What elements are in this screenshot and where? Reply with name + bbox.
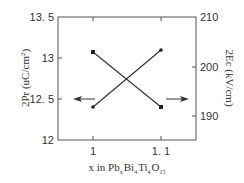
x-axis: 1 1. 1 <box>90 17 170 157</box>
left-tick-12-5: 12. 5 <box>30 93 54 105</box>
left-tick-12: 12 <box>42 134 54 146</box>
x-axis-label: x in PbxBi4Ti4O15 <box>89 161 166 175</box>
marker-2pr-1 <box>91 105 95 109</box>
marker-2ec-2 <box>159 105 163 109</box>
right-tick-200: 200 <box>200 61 218 73</box>
marker-2pr-2 <box>159 48 163 52</box>
right-arrow-icon <box>166 96 189 102</box>
left-axis: 13. 5 13 12. 5 12 <box>30 11 62 146</box>
x-tick-1-1: 1. 1 <box>152 145 170 157</box>
right-tick-190: 190 <box>200 110 218 122</box>
marker-2ec-1 <box>91 50 95 54</box>
chart: 13. 5 13 12. 5 12 210 200 190 1 1. 1 2Pr… <box>0 0 244 183</box>
left-arrow-icon <box>73 96 95 102</box>
right-axis-label: 2Ec (kV/cm) <box>223 49 236 106</box>
right-tick-210: 210 <box>200 11 218 23</box>
x-tick-1: 1 <box>90 145 96 157</box>
left-tick-13-5: 13. 5 <box>30 11 54 23</box>
left-tick-13: 13 <box>42 52 54 64</box>
left-axis-label: 2Pr (uC/cm2) <box>19 49 32 108</box>
